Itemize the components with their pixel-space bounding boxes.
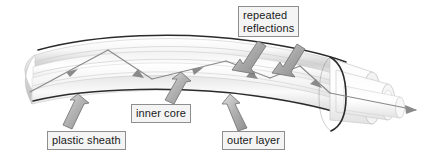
cable-right-tube-end xyxy=(319,57,405,131)
label-inner-core: inner core xyxy=(131,104,191,123)
plastic-sheath-callout-arrow xyxy=(63,94,89,129)
label-plastic-sheath: plastic sheath xyxy=(47,131,126,150)
ray-arrowhead-exit xyxy=(405,105,417,114)
label-repeated-reflections: repeatedreflections xyxy=(238,6,299,37)
fibre-optic-diagram: repeatedreflections inner core plastic s… xyxy=(0,0,428,161)
outer-layer-callout-arrow xyxy=(222,94,247,131)
label-repeated-reflections-line1: repeated xyxy=(243,9,287,21)
label-outer-layer-text: outer layer xyxy=(227,134,280,146)
label-outer-layer: outer layer xyxy=(222,131,285,150)
label-plastic-sheath-text: plastic sheath xyxy=(52,134,121,146)
label-inner-core-text: inner core xyxy=(136,107,186,119)
label-repeated-reflections-line2: reflections xyxy=(243,22,294,34)
